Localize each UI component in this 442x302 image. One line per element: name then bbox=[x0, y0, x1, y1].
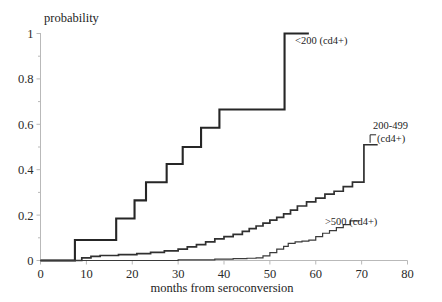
series-label-gt500: >500 (cd4+) bbox=[325, 216, 378, 228]
x-tick-label: 60 bbox=[310, 267, 323, 281]
chart-figure: 00.20.40.60.81 01020304050607080 <200 (c… bbox=[0, 0, 442, 302]
y-axis-title: probability bbox=[44, 11, 100, 25]
y-tick-label: 0.8 bbox=[18, 72, 34, 86]
x-tick-label: 20 bbox=[126, 267, 139, 281]
x-tick-label: 80 bbox=[401, 267, 414, 281]
y-tick-label: 0.2 bbox=[18, 209, 34, 223]
x-tick-label: 40 bbox=[218, 267, 231, 281]
x-tick-label: 0 bbox=[37, 267, 43, 281]
series-label-lt200: <200 (cd4+) bbox=[295, 35, 348, 47]
x-tick-label: 70 bbox=[355, 267, 368, 281]
y-tick-label: 0 bbox=[27, 254, 33, 268]
x-tick-label: 50 bbox=[264, 267, 277, 281]
y-tick-label: 0.4 bbox=[18, 163, 34, 177]
series-label-200-499-line1: 200-499 bbox=[373, 120, 408, 131]
x-tick-label: 10 bbox=[80, 267, 93, 281]
chart-background bbox=[0, 0, 442, 302]
survival-curve-chart: 00.20.40.60.81 01020304050607080 <200 (c… bbox=[0, 0, 442, 302]
x-axis-title: months from seroconversion bbox=[150, 281, 294, 295]
y-tick-label: 0.6 bbox=[18, 118, 34, 132]
series-label-200-499-line2: (cd4+) bbox=[377, 133, 406, 145]
x-tick-label: 30 bbox=[172, 267, 185, 281]
y-tick-label: 1 bbox=[27, 27, 33, 41]
